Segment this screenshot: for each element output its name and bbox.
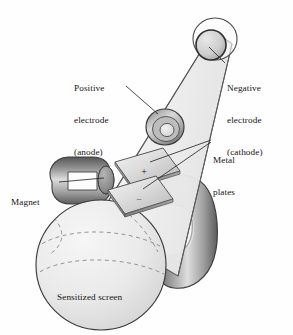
cathode-sphere — [196, 30, 226, 60]
label-sensitized-screen: Sensitized screen — [57, 271, 122, 324]
plate-negative-sign: − — [136, 194, 142, 205]
label-anode-line3: (anode) — [74, 147, 109, 158]
label-positive-electrode: Positive electrode (anode) — [74, 62, 109, 179]
cathode-ray-tube-diagram: + − Positive electrode (anode) Negative … — [0, 0, 293, 335]
label-cathode-line2: electrode — [227, 115, 263, 126]
plate-positive-sign: + — [141, 166, 147, 177]
label-plates-line2: plates — [213, 187, 235, 198]
label-anode-line1: Positive — [74, 83, 109, 94]
label-screen-line1: Sensitized screen — [57, 292, 122, 303]
label-magnet: Magnet — [11, 176, 40, 229]
negative-electrode-cathode — [196, 30, 226, 60]
label-cathode-line1: Negative — [227, 83, 263, 94]
label-metal-plates: Metal plates — [213, 134, 235, 219]
label-plates-line1: Metal — [213, 155, 235, 166]
anode-aperture — [160, 123, 174, 136]
positive-electrode-anode — [146, 109, 184, 145]
label-anode-line2: electrode — [74, 115, 109, 126]
leader-anode — [126, 86, 158, 114]
label-magnet-line1: Magnet — [11, 197, 40, 208]
